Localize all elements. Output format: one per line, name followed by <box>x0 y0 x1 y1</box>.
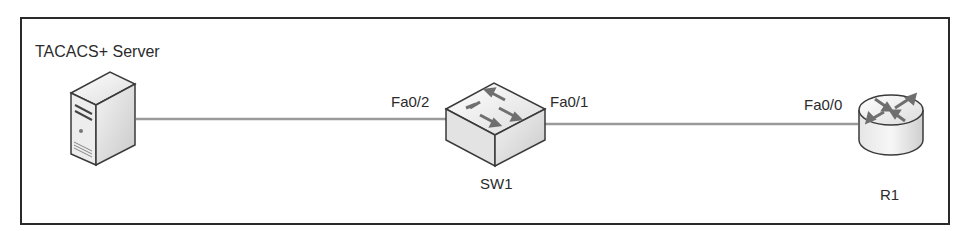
port-label-sw1-fa0-1: Fa0/1 <box>550 93 588 110</box>
server-icon[interactable] <box>71 72 135 165</box>
router-label: R1 <box>880 186 899 203</box>
switch-icon[interactable] <box>446 83 545 166</box>
port-label-r1-fa0-0: Fa0/0 <box>804 96 842 113</box>
server-label: TACACS+ Server <box>35 43 160 61</box>
router-icon[interactable] <box>859 95 923 155</box>
network-diagram <box>0 0 974 231</box>
port-label-sw1-fa0-2: Fa0/2 <box>391 93 429 110</box>
switch-label: SW1 <box>480 175 513 192</box>
